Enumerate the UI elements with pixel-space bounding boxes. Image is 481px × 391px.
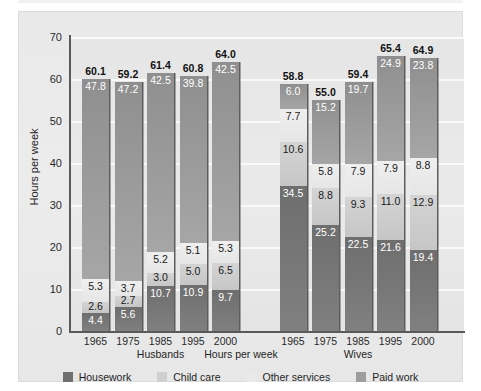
segment-value-label: 10.7 <box>149 288 171 299</box>
bar-segment[interactable]: 9.7 <box>212 290 239 331</box>
bar-segment[interactable]: 3.0 <box>147 273 174 286</box>
chart-figure: 010203040506070 Hours per week 4.42.65.3… <box>0 0 481 391</box>
bar-segment[interactable]: 25.2 <box>312 225 339 331</box>
bar-body: 10.73.05.242.561.4 <box>147 73 174 331</box>
bar-body: 9.76.55.342.564.0 <box>212 62 239 331</box>
bar-segment[interactable]: 42.5 <box>212 62 239 241</box>
bar-segment[interactable]: 22.5 <box>345 237 372 332</box>
x-tick-label: 2000 <box>400 335 446 347</box>
bar-segment[interactable]: 12.9 <box>410 195 437 249</box>
legend-swatch-icon <box>247 372 257 382</box>
bar-total-label: 64.0 <box>215 49 235 60</box>
bar-segment[interactable]: 42.5 <box>147 73 174 252</box>
segment-value-label: 11.0 <box>380 196 402 207</box>
bar-total-label: 64.9 <box>413 45 433 56</box>
legend-swatch-icon <box>356 372 366 382</box>
bar-segment[interactable]: 47.2 <box>115 82 142 280</box>
y-tick-label: 0 <box>30 326 62 336</box>
bar-segment[interactable]: 23.8 <box>410 58 437 158</box>
bar-segment[interactable]: 6.5 <box>212 263 239 290</box>
bar-total-label: 60.1 <box>85 66 105 77</box>
bar-segment[interactable]: 5.0 <box>180 264 207 285</box>
legend-item[interactable]: Paid work <box>356 371 418 383</box>
bar-body: 21.611.07.924.965.4 <box>377 56 404 331</box>
chart-panel: 010203040506070 Hours per week 4.42.65.3… <box>18 11 463 382</box>
segment-value-label: 9.7 <box>217 292 234 303</box>
bar-segment[interactable]: 47.8 <box>82 79 109 280</box>
segment-value-label: 5.3 <box>217 243 234 254</box>
segment-value-label: 22.5 <box>347 239 369 250</box>
legend-item[interactable]: Housework <box>63 371 132 383</box>
bar-segment[interactable]: 39.8 <box>180 76 207 243</box>
bar-segment[interactable]: 19.4 <box>410 250 437 331</box>
stacked-bar[interactable]: 19.412.98.823.864.9 <box>410 37 437 331</box>
legend-swatch-icon <box>63 372 73 382</box>
bar-segment[interactable]: 5.3 <box>82 279 109 301</box>
bar-segment[interactable]: 10.7 <box>147 286 174 331</box>
bar-total-label: 59.4 <box>348 69 368 80</box>
segment-value-label: 5.2 <box>152 254 169 265</box>
y-axis-line <box>69 35 71 333</box>
segment-value-label: 19.4 <box>412 252 434 263</box>
segment-value-label: 5.8 <box>317 166 334 177</box>
bar-segment[interactable]: 5.6 <box>115 307 142 331</box>
bar-segment[interactable]: 5.2 <box>147 252 174 274</box>
chart-legend: HouseworkChild careOther servicesPaid wo… <box>18 371 463 383</box>
legend-item[interactable]: Child care <box>157 371 220 383</box>
bar-segment[interactable]: 2.6 <box>82 302 109 313</box>
stacked-bar[interactable]: 34.510.67.76.058.8 <box>280 37 307 331</box>
stacked-bar[interactable]: 21.611.07.924.965.4 <box>377 37 404 331</box>
segment-value-label: 3.7 <box>120 283 137 294</box>
bar-segment[interactable]: 34.5 <box>280 186 307 331</box>
bar-segment[interactable]: 9.3 <box>345 197 372 236</box>
bar-segment[interactable]: 15.2 <box>312 100 339 164</box>
segment-value-label: 2.7 <box>120 295 137 306</box>
bar-segment[interactable]: 8.8 <box>410 158 437 195</box>
bar-segment[interactable]: 2.7 <box>115 296 142 307</box>
stacked-bar[interactable]: 10.95.05.139.860.8 <box>180 37 207 331</box>
legend-label: Paid work <box>372 371 418 383</box>
bar-segment[interactable]: 3.7 <box>115 281 142 297</box>
y-axis-label: Hours per week <box>28 107 40 227</box>
bar-segment[interactable]: 21.6 <box>377 240 404 331</box>
bar-segment[interactable]: 7.9 <box>377 161 404 194</box>
bar-segment[interactable]: 6.0 <box>280 84 307 109</box>
bar-segment[interactable]: 19.7 <box>345 82 372 165</box>
stacked-bar[interactable]: 9.76.55.342.564.0 <box>212 37 239 331</box>
stacked-bar[interactable]: 10.73.05.242.561.4 <box>147 37 174 331</box>
bar-total-label: 60.8 <box>183 63 203 74</box>
bar-segment[interactable]: 5.8 <box>312 164 339 188</box>
bar-segment[interactable]: 8.8 <box>312 188 339 225</box>
bar-segment[interactable]: 7.9 <box>345 164 372 197</box>
bar-total-label: 58.8 <box>283 71 303 82</box>
group-label: Wives <box>298 348 418 360</box>
legend-label: Other services <box>263 371 331 383</box>
segment-value-label: 42.5 <box>149 75 171 86</box>
stacked-bar[interactable]: 5.62.73.747.259.2 <box>115 37 142 331</box>
legend-item[interactable]: Other services <box>247 371 331 383</box>
bar-segment[interactable]: 24.9 <box>377 56 404 161</box>
bar-segment[interactable]: 11.0 <box>377 194 404 240</box>
segment-value-label: 15.2 <box>314 102 336 113</box>
bar-segment[interactable]: 10.9 <box>180 285 207 331</box>
bar-body: 22.59.37.919.759.4 <box>345 82 372 331</box>
bar-segment[interactable]: 4.4 <box>82 313 109 331</box>
x-tick-label: 2000 <box>203 335 249 347</box>
segment-value-label: 8.8 <box>415 160 432 171</box>
bar-segment[interactable]: 7.7 <box>280 109 307 141</box>
stacked-bar[interactable]: 4.42.65.347.860.1 <box>82 37 109 331</box>
legend-label: Child care <box>173 371 220 383</box>
stacked-bar[interactable]: 25.28.85.815.255.0 <box>312 37 339 331</box>
y-tick-label: 10 <box>30 284 62 294</box>
bar-segment[interactable]: 5.3 <box>212 241 239 263</box>
segment-value-label: 6.5 <box>217 265 234 276</box>
segment-value-label: 34.5 <box>282 188 304 199</box>
segment-value-label: 39.8 <box>182 78 204 89</box>
segment-value-label: 4.4 <box>87 315 104 326</box>
bar-segment[interactable]: 10.6 <box>280 142 307 187</box>
segment-value-label: 8.8 <box>317 190 334 201</box>
bar-segment[interactable]: 5.1 <box>180 243 207 264</box>
bar-body: 4.42.65.347.860.1 <box>82 79 109 331</box>
stacked-bar[interactable]: 22.59.37.919.759.4 <box>345 37 372 331</box>
x-axis-line <box>69 331 465 333</box>
